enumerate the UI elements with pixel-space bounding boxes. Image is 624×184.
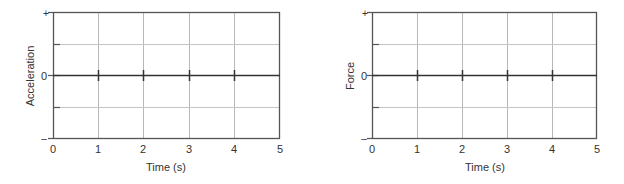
- x-tick-label: 0: [50, 143, 56, 155]
- y-minus-label: –: [41, 133, 47, 144]
- force-chart: + 0 – 0 1 2 3 4 5 Time (s) Force: [312, 0, 624, 184]
- y-plus-label: +: [43, 8, 49, 19]
- x-tick-label: 3: [504, 143, 510, 155]
- y-plus-label: +: [362, 8, 368, 19]
- x-tick-label: 3: [186, 143, 192, 155]
- x-tick-label: 1: [414, 143, 420, 155]
- x-tick-label: 0: [369, 143, 375, 155]
- acceleration-chart: + 0 – 0 1 2 3 4 5 Time (s) Acceleration: [0, 0, 312, 184]
- y-axis-title: Acceleration: [24, 46, 36, 107]
- x-tick-label: 2: [459, 143, 465, 155]
- x-axis-title: Time (s): [146, 161, 186, 173]
- x-tick-label: 1: [95, 143, 101, 155]
- x-tick-label: 4: [549, 143, 555, 155]
- acceleration-plot: + 0 – 0 1 2 3 4 5 Time (s) Acceleration: [0, 0, 312, 184]
- x-tick-label: 5: [594, 143, 600, 155]
- x-tick-label: 5: [277, 143, 283, 155]
- x-axis-title: Time (s): [465, 161, 505, 173]
- x-tick-label: 4: [231, 143, 237, 155]
- x-tick-label: 2: [140, 143, 146, 155]
- y-axis-title: Force: [344, 62, 356, 90]
- force-plot: + 0 – 0 1 2 3 4 5 Time (s) Force: [312, 0, 624, 184]
- y-zero-label: 0: [361, 70, 367, 82]
- y-minus-label: –: [361, 133, 367, 144]
- y-zero-label: 0: [41, 70, 47, 82]
